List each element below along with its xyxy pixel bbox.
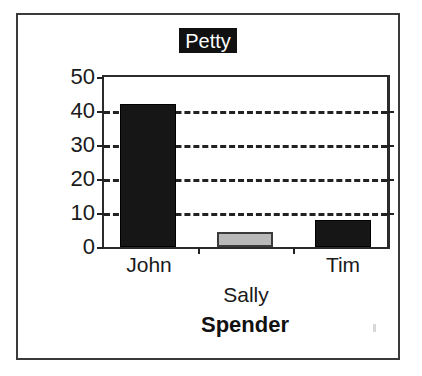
y-tick-0 [97,247,104,249]
x-tick-label-tim: Tim [326,253,360,276]
bar-sally[interactable] [217,232,273,247]
y-tick-30 [97,145,104,147]
y-tick-right-20 [387,179,394,181]
y-tick-right-30 [387,145,394,147]
chart-title[interactable]: Petty [179,28,237,53]
scan-artifact-speck [373,324,376,332]
y-tick-20 [97,179,104,181]
y-tick-label-20: 20 [71,168,95,190]
y-tick-label-0: 0 [83,236,95,258]
y-tick-50 [97,77,104,79]
bar-john[interactable] [120,104,176,247]
plot-area: 50 40 30 20 10 0 John Sally Tim [102,75,390,249]
x-axis-title: Spender [102,313,388,337]
bar-tim[interactable] [315,220,371,247]
y-tick-label-40: 40 [71,100,95,122]
x-tick-label-john: John [126,253,172,276]
x-tick-2 [293,247,295,254]
y-tick-right-40 [387,111,394,113]
y-tick-label-50: 50 [71,66,95,88]
x-tick-1 [198,247,200,254]
x-tick-label-sally: Sally [223,283,269,306]
y-tick-label-30: 30 [71,134,95,156]
scanned-chart-page: Petty Amount 50 40 30 20 [0,0,422,376]
y-tick-right-10 [387,213,394,215]
chart-title-container: Petty [18,28,398,57]
y-tick-label-10: 10 [71,202,95,224]
chart-frame: Petty Amount 50 40 30 20 [16,13,400,360]
y-tick-40 [97,111,104,113]
y-tick-10 [97,213,104,215]
